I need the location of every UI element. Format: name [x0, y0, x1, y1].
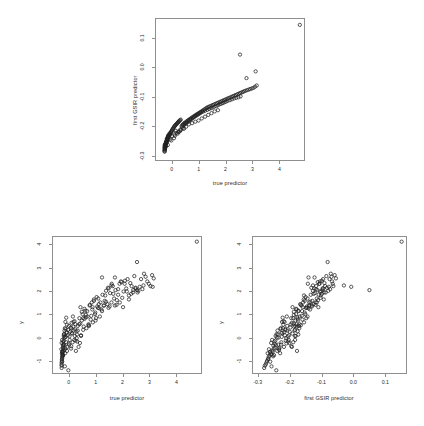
- x-tick-label: 3: [139, 379, 159, 385]
- x-tick-label: 0.0: [343, 379, 363, 385]
- x-axis-title-top: true predictor: [180, 180, 280, 186]
- scatter-points-bottom-right: [253, 237, 408, 375]
- x-tickmark: [96, 374, 97, 377]
- y-tickmark: [152, 67, 155, 68]
- y-tick-label: 1: [36, 307, 42, 321]
- x-tick-label: 0: [59, 379, 79, 385]
- y-tickmark: [152, 156, 155, 157]
- plot-frame-bottom-right: [252, 236, 407, 374]
- y-tickmark: [49, 244, 52, 245]
- y-tick-label: -1: [36, 354, 42, 368]
- y-tickmark: [249, 314, 252, 315]
- y-tick-label: 0: [36, 331, 42, 345]
- y-tickmark: [249, 338, 252, 339]
- x-tickmark: [149, 374, 150, 377]
- panel-bottom-left: y true predictor 01234-101234: [0, 213, 212, 426]
- x-tickmark: [290, 374, 291, 377]
- x-tick-label: 4: [166, 379, 186, 385]
- y-tickmark: [152, 97, 155, 98]
- y-tick-label: 0: [236, 331, 242, 345]
- plot-frame-top: [155, 18, 305, 161]
- x-tick-label: 1: [189, 166, 209, 172]
- y-tick-label: -1: [236, 354, 242, 368]
- y-tick-label: 1: [236, 307, 242, 321]
- y-tick-label: 0.0: [139, 60, 145, 74]
- x-tickmark: [123, 374, 124, 377]
- x-tickmark: [258, 374, 259, 377]
- panel-bottom-right: y first GSIR predictor -0.3-0.2-0.10.00.…: [212, 213, 424, 426]
- y-tickmark: [49, 361, 52, 362]
- y-axis-title-bottom-right: y: [218, 284, 224, 324]
- y-tickmark: [49, 291, 52, 292]
- y-tickmark: [249, 268, 252, 269]
- y-tick-label: 0.1: [139, 31, 145, 45]
- y-tickmark: [249, 361, 252, 362]
- panel-top: first GSIR predictor true predictor 0123…: [0, 0, 424, 200]
- plot-frame-bottom-left: [52, 236, 202, 374]
- x-tickmark: [353, 374, 354, 377]
- figure-canvas: first GSIR predictor true predictor 0123…: [0, 0, 424, 426]
- y-tick-label: -0.1: [139, 90, 145, 104]
- y-tick-label: 4: [236, 237, 242, 251]
- y-tick-label: 3: [236, 261, 242, 275]
- x-tick-label: 0.1: [375, 379, 395, 385]
- y-tickmark: [152, 38, 155, 39]
- y-tick-label: -0.2: [139, 119, 145, 133]
- x-tickmark: [199, 161, 200, 164]
- x-tickmark: [279, 161, 280, 164]
- y-tick-label: 3: [36, 261, 42, 275]
- x-tickmark: [176, 374, 177, 377]
- x-tickmark: [226, 161, 227, 164]
- x-tick-label: 4: [269, 166, 289, 172]
- x-axis-title-bottom-left: true predictor: [77, 395, 177, 401]
- y-tickmark: [49, 338, 52, 339]
- x-tickmark: [385, 374, 386, 377]
- y-tickmark: [49, 268, 52, 269]
- x-tick-label: -0.2: [280, 379, 300, 385]
- y-axis-title-bottom-left: y: [18, 284, 24, 324]
- y-tickmark: [152, 126, 155, 127]
- y-tickmark: [49, 314, 52, 315]
- x-tick-label: -0.3: [248, 379, 268, 385]
- y-tick-label: 4: [36, 237, 42, 251]
- x-tick-label: 2: [216, 166, 236, 172]
- y-tickmark: [249, 291, 252, 292]
- x-tick-label: -0.1: [312, 379, 332, 385]
- y-tick-label: -0.3: [139, 149, 145, 163]
- x-axis-title-bottom-right: first GSIR predictor: [279, 395, 379, 401]
- x-tickmark: [172, 161, 173, 164]
- x-tick-label: 3: [242, 166, 262, 172]
- x-tick-label: 2: [113, 379, 133, 385]
- x-tick-label: 0: [162, 166, 182, 172]
- y-axis-title-top: first GSIR predictor: [132, 49, 138, 125]
- y-tickmark: [249, 244, 252, 245]
- x-tickmark: [252, 161, 253, 164]
- scatter-points-bottom-left: [53, 237, 203, 375]
- x-tickmark: [69, 374, 70, 377]
- y-tick-label: 2: [236, 284, 242, 298]
- scatter-points-top: [156, 19, 306, 162]
- x-tick-label: 1: [86, 379, 106, 385]
- x-tickmark: [322, 374, 323, 377]
- y-tick-label: 2: [36, 284, 42, 298]
